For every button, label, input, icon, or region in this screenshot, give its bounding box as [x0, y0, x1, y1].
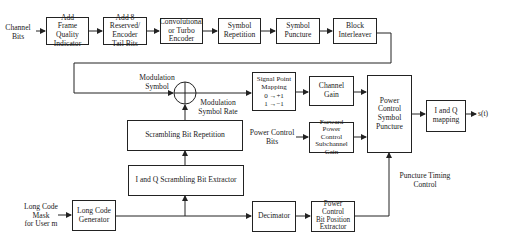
long-code-mask-label: Long Code Mask for User m	[22, 203, 60, 229]
block-diagram: Channel Bits Add Frame Quality Indicator…	[0, 0, 505, 245]
block-interleaver-block: Block Interleaver	[333, 18, 377, 44]
signal-point-mapping-block: Signal Point Mapping 0 →+1 1 →−1	[252, 72, 296, 111]
power-control-bit-position-extractor-block: Power Control Bit Position Extractor	[311, 201, 355, 232]
symbol-repetition-block: Symbol Repetition	[218, 18, 261, 44]
iq-mapping-block: I and Q mapping	[426, 100, 466, 132]
power-control-symbol-puncture-block: Power Control Symbol Puncture	[367, 75, 412, 153]
iq-scrambling-bit-extractor-block: I and Q Scrambling Bit Extractor	[128, 165, 244, 196]
add-tail-bits-block: Add 8 Reserved/ Encoder Tail Bits	[103, 17, 147, 45]
long-code-generator-block: Long Code Generator	[72, 200, 116, 231]
encoder-block: Convolutional or Turbo Encoder	[160, 18, 203, 44]
forward-power-control-subchannel-gain-block: Forward Power Control Subchannel Gain	[309, 122, 354, 153]
scrambling-bit-repetition-block: Scrambling Bit Repetition	[127, 120, 243, 151]
output-signal-label: s(t)	[478, 110, 498, 119]
channel-gain-block: Channel Gain	[309, 76, 354, 106]
modulation-symbol-label: Modulation Symbol	[134, 74, 180, 91]
channel-bits-label: Channel Bits	[0, 24, 36, 41]
modulation-symbol-rate-label: Modulation Symbol Rate	[193, 99, 243, 116]
add-frame-quality-indicator-block: Add Frame Quality Indicator	[46, 17, 89, 45]
puncture-timing-control-label: Puncture Timing Control	[395, 172, 455, 189]
decimator-block: Decimator	[252, 201, 296, 232]
power-control-bits-label: Power Control Bits	[244, 129, 300, 146]
symbol-puncture-block: Symbol Puncture	[276, 18, 320, 44]
